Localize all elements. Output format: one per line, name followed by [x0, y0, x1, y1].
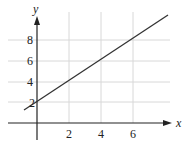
y-axis-arrow-icon	[34, 16, 40, 25]
x-tick-4: 4	[98, 128, 104, 140]
chart-canvas	[0, 0, 186, 143]
y-tick-6: 6	[27, 55, 33, 67]
y-tick-4: 4	[27, 76, 33, 88]
x-tick-6: 6	[130, 128, 136, 140]
x-tick-2: 2	[66, 128, 72, 140]
y-axis-label: y	[33, 3, 38, 15]
y-tick-2: 2	[29, 97, 35, 109]
y-tick-8: 8	[27, 34, 33, 46]
x-axis-label: x	[176, 117, 181, 129]
x-axis-arrow-icon	[163, 120, 172, 126]
series-line	[24, 15, 168, 110]
